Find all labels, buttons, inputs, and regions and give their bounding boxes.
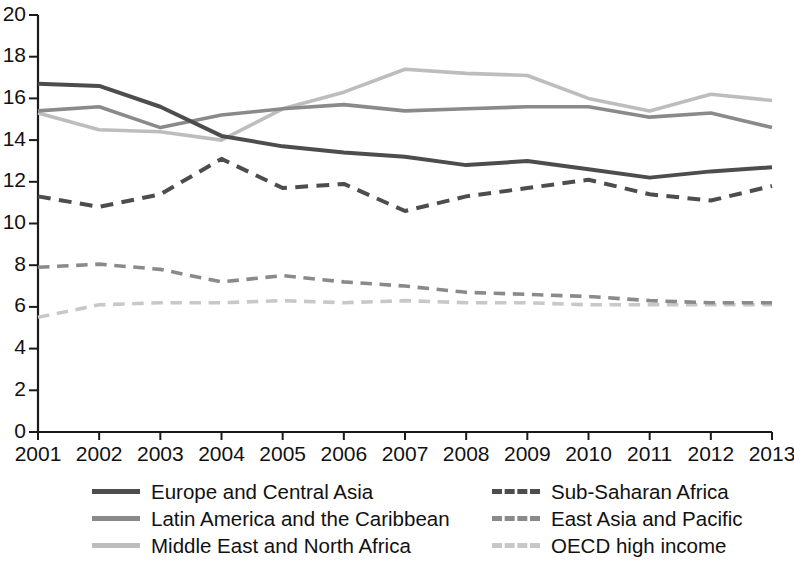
x-tick-label: 2013 [749,442,794,465]
legend-item[interactable]: OECD high income [492,532,794,559]
legend-item-label: Europe and Central Asia [151,482,373,502]
line-chart-plot: 02468101214161820 2001200220032004200520… [0,0,794,470]
x-axis-tick-marks [38,432,772,440]
x-tick-label: 2001 [15,442,62,465]
x-tick-label: 2002 [76,442,123,465]
y-tick-label: 20 [3,2,26,25]
x-tick-label: 2004 [198,442,245,465]
y-tick-label: 2 [14,377,26,400]
legend-item[interactable]: Europe and Central Asia [92,478,492,505]
x-tick-label: 2008 [443,442,490,465]
x-tick-label: 2011 [627,442,672,465]
y-tick-label: 4 [14,335,26,358]
x-axis-tick-labels: 2001200220032004200520062007200820092010… [15,442,794,465]
legend-item[interactable]: Sub-Saharan Africa [492,478,794,505]
chart-legend: Europe and Central AsiaSub-Saharan Afric… [0,478,794,561]
y-tick-label: 6 [14,293,26,316]
legend-swatch-dashed-line-icon [492,543,540,548]
legend-swatch-dashed-line-icon [492,516,540,521]
x-tick-label: 2003 [137,442,184,465]
legend-swatch-solid-line-icon [92,489,140,494]
x-tick-label: 2005 [259,442,306,465]
legend-item[interactable]: Middle East and North Africa [92,532,492,559]
series-line: East Asia and Pacific [38,264,772,303]
series-line: Sub-Saharan Africa [38,159,772,211]
legend-item-label: Sub-Saharan Africa [551,482,729,502]
legend-item-label: OECD high income [551,536,726,556]
x-tick-label: 2007 [382,442,429,465]
legend-item[interactable]: East Asia and Pacific [492,505,794,532]
legend-item[interactable]: Latin America and the Caribbean [92,505,492,532]
y-axis-tick-marks [29,15,38,432]
legend-swatch-solid-line-icon [92,516,140,521]
chart-figure: 02468101214161820 2001200220032004200520… [0,0,794,561]
y-tick-label: 0 [14,419,26,442]
x-tick-label: 2009 [504,442,551,465]
x-tick-label: 2010 [565,442,612,465]
y-tick-label: 14 [3,127,27,150]
x-tick-label: 2006 [320,442,367,465]
y-tick-label: 10 [3,210,26,233]
y-axis-tick-labels: 02468101214161820 [3,2,27,442]
y-tick-label: 16 [3,85,26,108]
series-line: OECD high income [38,301,772,318]
legend-swatch-solid-line-icon [92,543,140,548]
data-series-group: OECD high incomeMiddle East and North Af… [38,69,772,317]
legend-item-label: Middle East and North Africa [151,536,411,556]
legend-swatch-dashed-line-icon [492,489,540,494]
y-tick-label: 12 [3,168,26,191]
legend-item-label: East Asia and Pacific [551,509,742,529]
x-tick-label: 2012 [687,442,734,465]
y-tick-label: 8 [14,252,26,275]
y-tick-label: 18 [3,43,26,66]
legend-item-label: Latin America and the Caribbean [151,509,450,529]
